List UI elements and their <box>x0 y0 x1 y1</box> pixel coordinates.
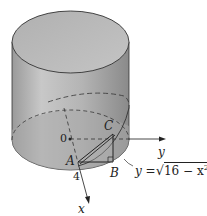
leader-line <box>124 159 133 166</box>
y-axis-label: y <box>158 146 165 158</box>
y-axis-arrow-icon <box>159 137 166 142</box>
equation-radicand: 16 − x2 <box>164 162 207 178</box>
x-axis-arrow-icon <box>85 196 90 204</box>
equation-label: y =√16 − x2 <box>135 164 207 177</box>
origin-dot <box>69 138 72 141</box>
origin-label: 0 <box>60 133 67 144</box>
point-a-label: A <box>66 155 75 167</box>
sqrt-icon: √ <box>156 163 164 178</box>
radius-label: 4 <box>73 171 80 182</box>
equation-exponent: 2 <box>204 163 207 172</box>
point-b-label: B <box>110 167 119 179</box>
cylinder-top <box>12 11 129 73</box>
cylinder-wedge-diagram <box>0 0 207 216</box>
equation-lhs: y = <box>135 164 156 178</box>
point-c-label: C <box>104 120 113 132</box>
x-axis-label: x <box>78 203 85 215</box>
